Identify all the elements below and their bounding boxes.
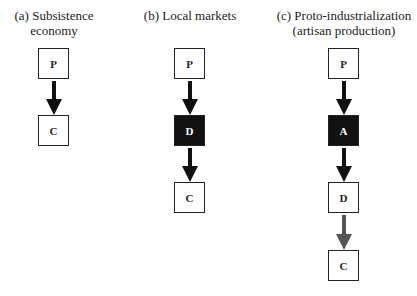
node-a-p: P — [38, 48, 69, 79]
node-c-a: A — [328, 115, 359, 146]
node-b-d: D — [174, 115, 205, 146]
title-line: (b) Local markets — [130, 8, 250, 23]
node-b-p: P — [174, 48, 205, 79]
node-c-d: D — [328, 182, 359, 213]
title-line: (artisan production) — [268, 23, 417, 38]
title-line: economy — [0, 23, 108, 38]
node-c-p: P — [328, 48, 359, 79]
node-c-c: C — [328, 250, 359, 281]
panel-b-title: (b) Local markets — [130, 8, 250, 23]
panel-a-title: (a) Subsistence economy — [0, 8, 108, 38]
node-b-c: C — [174, 182, 205, 213]
panel-c-title: (c) Proto-industrialization (artisan pro… — [268, 8, 417, 38]
title-line: (a) Subsistence — [0, 8, 108, 23]
title-line: (c) Proto-industrialization — [268, 8, 417, 23]
node-a-c: C — [38, 115, 69, 146]
